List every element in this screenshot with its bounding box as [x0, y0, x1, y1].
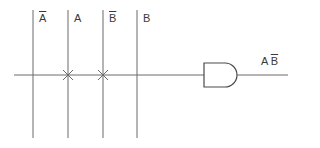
label-a-bar: A: [39, 12, 46, 24]
output-label-a: A: [261, 55, 268, 67]
label-b: B: [143, 12, 150, 24]
label-a: A: [74, 12, 81, 24]
and-gate-icon: [204, 63, 237, 87]
output-label-b-bar: B: [271, 55, 278, 67]
output-label: A B: [261, 55, 278, 67]
label-b-bar: B: [109, 12, 116, 24]
